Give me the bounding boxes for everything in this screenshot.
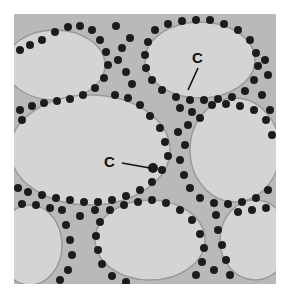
c-cell-label-2: C xyxy=(104,154,115,169)
tissue-drawing xyxy=(14,14,276,284)
c-cell-label-1: C xyxy=(192,50,203,65)
micrograph-image xyxy=(14,14,276,284)
follicles xyxy=(14,22,276,284)
